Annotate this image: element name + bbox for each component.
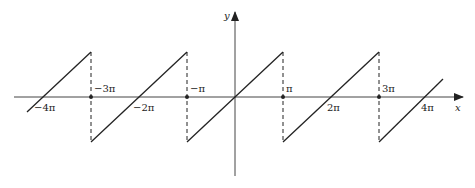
tick-label-pi: π	[286, 83, 293, 94]
tick-label-3pi: 3π	[382, 83, 395, 94]
tick-label-m3pi: −3π	[94, 83, 116, 94]
dot-3pi	[377, 95, 381, 99]
diagram-canvas: −4π −3π −2π −π π 2π 3π 4π x y	[0, 0, 475, 188]
tick-label-2pi: 2π	[327, 102, 340, 113]
tick-label-4pi: 4π	[421, 102, 434, 113]
tick-label-mpi: −π	[190, 83, 205, 94]
x-axis-label: x	[455, 102, 461, 113]
dot-mpi	[185, 95, 189, 99]
tick-label-m4pi: −4π	[34, 102, 56, 113]
dot-pi	[281, 95, 285, 99]
y-axis-label: y	[223, 10, 230, 21]
sawtooth-diagram: −4π −3π −2π −π π 2π 3π 4π x y	[0, 0, 475, 188]
tick-label-m2pi: −2π	[133, 102, 155, 113]
dot-m3pi	[89, 95, 93, 99]
